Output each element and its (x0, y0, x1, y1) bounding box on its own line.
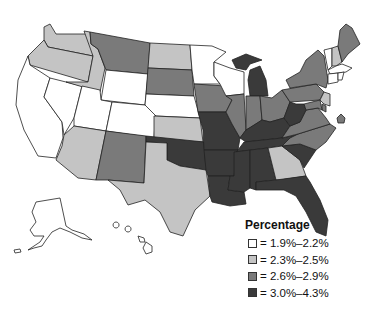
state-wyoming (101, 70, 148, 105)
legend-item-4: = 3.0%–4.3% (248, 285, 329, 302)
legend-item-1: = 1.9%–2.2% (248, 235, 329, 252)
state-rhode-island (338, 72, 344, 80)
legend-swatch-1 (248, 239, 257, 248)
state-alaska (14, 198, 92, 253)
legend-swatch-3 (248, 272, 257, 281)
state-dc (337, 114, 345, 123)
state-hawaii (113, 222, 152, 254)
legend-label-3: = 2.6%–2.9% (260, 270, 329, 282)
us-choropleth-map: Percentage = 1.9%–2.2% = 2.3%–2.5% = 2.6… (0, 0, 368, 314)
state-delaware (322, 104, 326, 112)
legend-label-2: = 2.3%–2.5% (260, 254, 329, 266)
legend-item-3: = 2.6%–2.9% (248, 268, 329, 285)
legend-label-4: = 3.0%–4.3% (260, 287, 329, 299)
legend-item-2: = 2.3%–2.5% (248, 252, 329, 269)
state-maine (338, 24, 360, 62)
state-pennsylvania (282, 84, 324, 102)
legend-swatch-4 (248, 288, 257, 297)
state-south-dakota (146, 68, 194, 96)
state-arkansas (204, 150, 238, 176)
state-connecticut (328, 73, 338, 84)
state-maryland (304, 100, 322, 110)
state-north-dakota (148, 43, 192, 70)
legend-title: Percentage (245, 218, 329, 232)
map-legend: Percentage = 1.9%–2.2% = 2.3%–2.5% = 2.6… (245, 218, 329, 301)
legend-label-1: = 1.9%–2.2% (260, 237, 329, 249)
state-new-york (286, 50, 328, 88)
legend-swatch-2 (248, 255, 257, 264)
